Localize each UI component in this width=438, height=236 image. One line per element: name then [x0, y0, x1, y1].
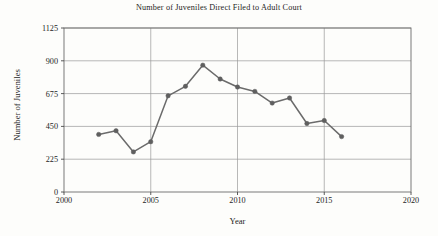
gridlines — [64, 28, 411, 192]
data-point — [305, 121, 309, 125]
data-point — [166, 94, 170, 98]
y-tick-label: 675 — [24, 89, 58, 98]
data-point — [253, 89, 257, 93]
x-axis-label: Year — [64, 216, 411, 226]
x-tick-label: 2005 — [131, 196, 171, 205]
y-axis-label: Number of Juveniles — [12, 35, 22, 175]
data-series — [97, 63, 344, 154]
y-tick-label: 900 — [24, 56, 58, 65]
axis-ticks — [61, 28, 411, 195]
data-point — [339, 134, 343, 138]
data-point — [270, 101, 274, 105]
chart-title: Number of Juveniles Direct Filed to Adul… — [0, 3, 438, 12]
x-tick-label: 2020 — [391, 196, 431, 205]
data-point — [131, 150, 135, 154]
data-point — [235, 85, 239, 89]
data-point — [218, 77, 222, 81]
data-point — [183, 84, 187, 88]
chart-container: Number of Juveniles Direct Filed to Adul… — [0, 0, 438, 236]
data-point — [149, 140, 153, 144]
x-tick-label: 2010 — [218, 196, 258, 205]
y-tick-label: 1125 — [24, 24, 58, 33]
data-point — [287, 96, 291, 100]
data-point — [97, 132, 101, 136]
y-tick-label: 225 — [24, 155, 58, 164]
data-point — [201, 63, 205, 67]
data-point — [114, 129, 118, 133]
x-tick-label: 2000 — [44, 196, 84, 205]
data-point — [322, 118, 326, 122]
y-tick-label: 450 — [24, 122, 58, 131]
x-tick-label: 2015 — [304, 196, 344, 205]
